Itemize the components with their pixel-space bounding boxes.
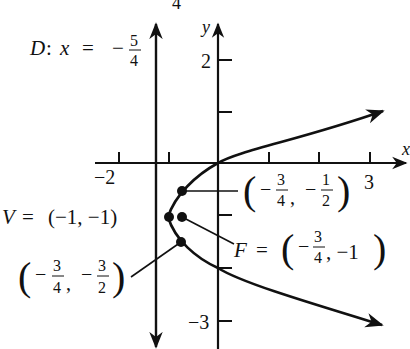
svg-text:−: − bbox=[35, 263, 46, 285]
x-tick-label-3: 3 bbox=[364, 171, 374, 193]
svg-text:2: 2 bbox=[98, 279, 106, 296]
svg-text:3: 3 bbox=[277, 171, 285, 188]
svg-text:−: − bbox=[112, 36, 124, 60]
svg-text:,: , bbox=[290, 186, 295, 208]
svg-text:): ) bbox=[112, 254, 125, 299]
point-lower-dot bbox=[176, 237, 186, 247]
svg-text:2: 2 bbox=[322, 192, 330, 209]
svg-text:−: − bbox=[260, 178, 271, 200]
svg-text:3: 3 bbox=[98, 257, 106, 274]
point-upper-dot bbox=[177, 186, 187, 196]
parabola-curve bbox=[168, 111, 383, 325]
point-upper-label: ( − 3 4 , − 1 2 ) bbox=[243, 168, 350, 213]
svg-text:−: − bbox=[305, 178, 316, 200]
svg-text:x: x bbox=[59, 36, 70, 60]
svg-text:(: ( bbox=[243, 168, 256, 213]
svg-text:4: 4 bbox=[53, 279, 61, 296]
directrix-label: D : x = − 5 4 bbox=[29, 32, 141, 69]
svg-text:−: − bbox=[81, 263, 92, 285]
vertex-label: V = (−1, −1) bbox=[2, 205, 117, 229]
svg-text:5: 5 bbox=[130, 32, 138, 49]
svg-text:3: 3 bbox=[314, 228, 322, 245]
svg-text:D: D bbox=[29, 36, 45, 60]
svg-text:F: F bbox=[233, 238, 247, 262]
x-tick-label-neg2: −2 bbox=[94, 166, 115, 188]
svg-text:(−1, −1): (−1, −1) bbox=[48, 205, 117, 229]
svg-text::: : bbox=[46, 36, 52, 60]
svg-text:4: 4 bbox=[130, 52, 138, 69]
y-axis-label: y bbox=[200, 17, 210, 37]
svg-text:=: = bbox=[256, 238, 268, 262]
x-axis-label: x bbox=[401, 139, 410, 159]
point-lower-label: ( − 3 4 , − 3 2 ) bbox=[18, 254, 125, 299]
svg-text:4: 4 bbox=[277, 192, 285, 209]
focus-dot bbox=[177, 212, 187, 222]
stray-top-text: 4 bbox=[172, 0, 181, 13]
svg-text:−: − bbox=[298, 235, 309, 257]
svg-text:(: ( bbox=[18, 254, 31, 299]
svg-text:=: = bbox=[82, 36, 94, 60]
svg-text:, −1: , −1 bbox=[326, 240, 359, 264]
svg-text:): ) bbox=[373, 226, 386, 271]
svg-text:4: 4 bbox=[314, 249, 322, 266]
svg-text:1: 1 bbox=[322, 171, 330, 188]
svg-text:=: = bbox=[22, 205, 34, 229]
svg-text:(: ( bbox=[281, 226, 294, 271]
svg-text:V: V bbox=[2, 205, 17, 229]
y-tick-label-neg3: −3 bbox=[188, 311, 209, 333]
focus-label: F = ( − 3 4 , −1 ) bbox=[233, 226, 386, 271]
y-tick-label-2: 2 bbox=[201, 50, 211, 72]
vertex-dot bbox=[164, 212, 174, 222]
svg-text:): ) bbox=[337, 168, 350, 213]
svg-text:3: 3 bbox=[53, 257, 61, 274]
leader-focus bbox=[182, 217, 234, 244]
svg-text:,: , bbox=[66, 272, 71, 294]
parabola-diagram: 4 x y −2 3 2 −3 D : x = − 5 bbox=[0, 0, 410, 349]
